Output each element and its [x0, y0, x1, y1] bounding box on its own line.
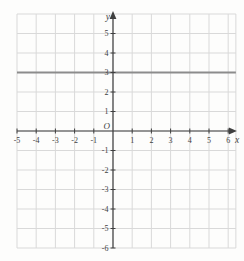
y-tick-label: 3	[105, 68, 109, 77]
x-tick-label: 1	[130, 136, 134, 145]
x-tick-label: 5	[207, 136, 211, 145]
x-tick-label: 3	[169, 136, 173, 145]
y-tick-label: -5	[102, 224, 109, 233]
origin-label: O	[104, 121, 111, 131]
y-tick-label: 5	[105, 29, 109, 38]
y-tick-label: -1	[102, 146, 109, 155]
y-axis-label: y	[105, 12, 111, 22]
y-tick-label: 4	[105, 49, 109, 58]
x-tick-label: -2	[71, 136, 78, 145]
x-tick-label: -4	[33, 136, 40, 145]
coordinate-plane: -5-4-3-2-112345654321-1-2-3-4-5-6Oxy	[0, 0, 244, 261]
x-tick-label: -5	[14, 136, 21, 145]
y-tick-label: -2	[102, 166, 109, 175]
y-tick-label: -6	[102, 244, 109, 253]
y-tick-label: -3	[102, 185, 109, 194]
x-tick-label: 2	[149, 136, 153, 145]
x-tick-label: 4	[188, 136, 192, 145]
y-tick-label: -4	[102, 205, 109, 214]
x-tick-label: -3	[52, 136, 59, 145]
x-axis-label: x	[234, 135, 240, 145]
y-tick-label: 1	[105, 107, 109, 116]
x-tick-label: 6	[226, 136, 230, 145]
y-tick-label: 2	[105, 88, 109, 97]
x-tick-label: -1	[90, 136, 97, 145]
coordinate-plane-figure: -5-4-3-2-112345654321-1-2-3-4-5-6Oxy	[0, 0, 244, 261]
